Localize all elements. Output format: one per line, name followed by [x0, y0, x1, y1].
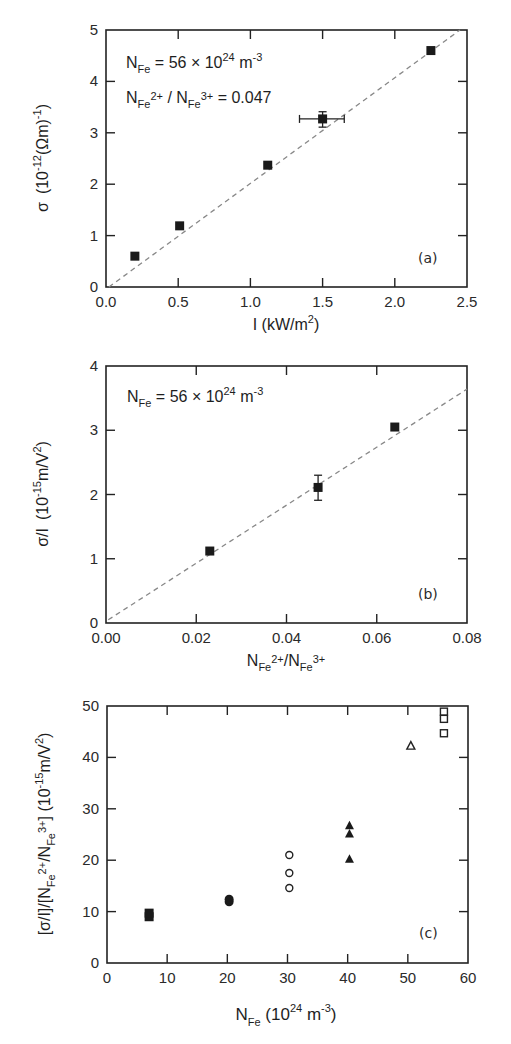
data-point-open-square	[440, 715, 447, 722]
y-tick-label: 3	[90, 421, 98, 438]
y-tick-label: 40	[82, 748, 99, 765]
x-tick-label: 0.00	[91, 629, 120, 646]
data-point-open-square	[440, 708, 447, 715]
panel-tag-a: (a)	[418, 250, 438, 266]
y-tick-label: 0	[90, 614, 98, 631]
x-tick-label: 0.0	[96, 293, 117, 310]
x-tick-label: 0.04	[272, 629, 301, 646]
x-axis-label-b: NFe2+/NFe3+	[247, 652, 325, 673]
y-tick-label: 2	[90, 486, 98, 503]
data-point-filled-square	[263, 161, 272, 170]
x-tick-label: 0.06	[362, 629, 391, 646]
y-tick-label: 4	[90, 357, 98, 374]
x-tick-label: 40	[339, 969, 356, 986]
data-markers	[130, 46, 435, 261]
data-markers	[205, 423, 399, 556]
y-tick-label: 2	[90, 175, 98, 192]
x-tick-label: 0.5	[168, 293, 189, 310]
data-point-filled-square	[390, 423, 399, 432]
data-point-filled-square	[145, 909, 154, 918]
data-point-open-triangle	[407, 742, 415, 750]
data-point-filled-square	[314, 483, 323, 492]
data-point-filled-square	[205, 547, 214, 556]
y-axis-label-c: [σ/I]/[NFe2+/NFe3+] (10-15m/V2)	[33, 733, 57, 936]
y-tick-label: 3	[90, 124, 98, 141]
y-tick-label: 1	[90, 227, 98, 244]
data-point-open-circle	[286, 852, 293, 859]
annotation-density: NFe = 56 × 1024 m-3	[126, 51, 262, 75]
x-tick-label: 0.08	[452, 629, 481, 646]
x-axis-label-c: NFe (1024 m-3)	[235, 1002, 336, 1028]
y-tick-label: 0	[91, 954, 99, 971]
y-axis-label-a: σ(10-12(Ωm)-1)	[31, 104, 51, 212]
data-point-open-circle	[286, 884, 293, 891]
x-tick-label: 2.0	[384, 293, 405, 310]
y-tick-label: 0	[90, 278, 98, 295]
y-tick-label: 30	[82, 800, 99, 817]
y-tick-label: 4	[90, 72, 98, 89]
data-point-filled-triangle	[345, 821, 354, 830]
figure: 0.00.51.01.52.02.5012345 NFe = 56 × 1024…	[0, 0, 511, 1044]
y-axis-label-b: σ/I(10-15m/V2)	[31, 441, 51, 547]
x-tick-label: 2.5	[457, 293, 478, 310]
annotation-ratio: NFe2+ / NFe3+ = 0.047	[126, 89, 272, 110]
x-tick-label: 0.02	[182, 629, 211, 646]
data-markers	[145, 708, 448, 921]
panel-tag-c: (c)	[419, 925, 438, 941]
x-tick-label: 0	[103, 969, 111, 986]
data-point-filled-square	[130, 252, 139, 261]
ticks: 010203040506001020304050	[82, 697, 476, 986]
x-tick-label: 1.0	[240, 293, 261, 310]
panel-c: 010203040506001020304050 (c) NFe (1024 m…	[33, 697, 476, 1028]
y-tick-label: 10	[82, 903, 99, 920]
x-tick-label: 10	[159, 969, 176, 986]
y-tick-label: 20	[82, 851, 99, 868]
x-tick-label: 30	[279, 969, 296, 986]
fit-line-group	[108, 389, 467, 620]
x-axis-label-a: I (kW/m2)	[253, 313, 320, 333]
x-tick-label: 20	[219, 969, 236, 986]
plot-frame	[107, 706, 468, 963]
data-point-filled-square	[426, 46, 435, 55]
y-tick-label: 50	[82, 697, 99, 714]
data-point-filled-triangle	[345, 829, 354, 838]
y-tick-label: 1	[90, 550, 98, 567]
data-point-filled-triangle	[345, 854, 354, 863]
annotation-density: NFe = 56 × 1024 m-3	[127, 385, 263, 409]
x-tick-label: 1.5	[312, 293, 333, 310]
fit-line	[108, 389, 467, 620]
panel-a: 0.00.51.01.52.02.5012345 NFe = 56 × 1024…	[31, 21, 477, 333]
data-point-open-square	[440, 730, 447, 737]
panel-tag-b: (b)	[418, 586, 438, 602]
y-tick-label: 5	[90, 21, 98, 38]
x-tick-label: 50	[399, 969, 416, 986]
x-tick-label: 60	[460, 969, 477, 986]
data-point-filled-square	[318, 114, 327, 123]
data-point-filled-square	[175, 221, 184, 230]
data-point-filled-circle	[225, 895, 234, 904]
data-point-open-circle	[286, 870, 293, 877]
panel-b: 0.000.020.040.060.0801234 NFe = 56 × 102…	[31, 357, 482, 673]
